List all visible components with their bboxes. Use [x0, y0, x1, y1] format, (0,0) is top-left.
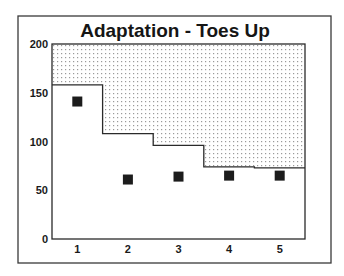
- square-marker: [123, 175, 133, 185]
- chart-title: Adaptation - Toes Up: [80, 20, 270, 41]
- x-tick-label: 4: [226, 243, 233, 255]
- y-tick-label: 150: [30, 87, 48, 99]
- x-tick-label: 2: [125, 243, 131, 255]
- y-tick-label: 0: [42, 233, 48, 245]
- x-tick-label: 1: [74, 243, 80, 255]
- x-tick-label: 5: [277, 243, 283, 255]
- y-axis-labels: 0 50 100 150 200: [30, 38, 48, 245]
- square-marker: [275, 171, 285, 181]
- y-tick-label: 50: [36, 184, 48, 196]
- shaded-region: [52, 44, 305, 168]
- square-marker: [72, 97, 82, 107]
- square-marker: [174, 172, 184, 182]
- x-axis-labels: 1 2 3 4 5: [74, 243, 283, 255]
- x-tick-label: 3: [175, 243, 181, 255]
- y-tick-label: 100: [30, 136, 48, 148]
- square-marker: [224, 171, 234, 181]
- chart-figure: Adaptation - Toes Up 0 50 100 150 200 1 …: [0, 0, 344, 276]
- y-tick-label: 200: [30, 38, 48, 50]
